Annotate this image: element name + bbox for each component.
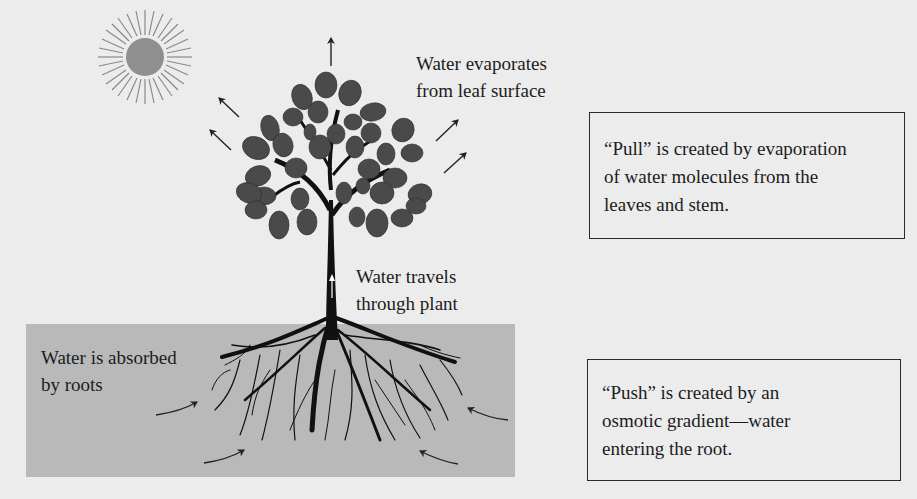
pull-line-3: leaves and stem.	[604, 191, 890, 219]
absorbed-label: Water is absorbed by roots	[41, 344, 177, 398]
pull-line-2: of water molecules from the	[604, 163, 890, 191]
water-inflow-arrows	[156, 402, 508, 464]
push-callout: “Push” is created by an osmotic gradient…	[587, 359, 901, 481]
evaporation-label: Water evaporates from leaf surface	[416, 50, 547, 104]
push-line-1: “Push” is created by an	[602, 379, 886, 407]
travel-label: Water travels through plant	[356, 263, 458, 317]
pull-callout: “Pull” is created by evaporation of wate…	[589, 112, 905, 239]
push-line-3: entering the root.	[602, 435, 886, 463]
push-line-2: osmotic gradient—water	[602, 407, 886, 435]
sun-icon	[98, 10, 192, 104]
diagram-canvas: Water evaporates from leaf surface Water…	[0, 0, 917, 499]
pull-line-1: “Pull” is created by evaporation	[604, 135, 890, 163]
